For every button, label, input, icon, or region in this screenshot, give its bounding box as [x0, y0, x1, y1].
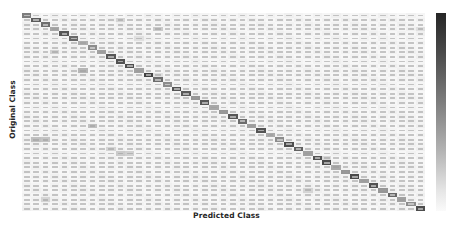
- cell-value-text: [352, 84, 358, 86]
- cell-value-text: [33, 56, 39, 58]
- cell-value-text: [324, 51, 330, 53]
- cell-value-text: [296, 189, 302, 191]
- cell-value-text: [43, 153, 49, 155]
- cell-value-text: [118, 70, 124, 72]
- cell-value-text: [165, 139, 171, 141]
- cell-value-text: [211, 208, 217, 210]
- cell-value-text: [230, 157, 236, 159]
- cell-value-text: [286, 28, 292, 30]
- cell-value-text: [371, 28, 377, 30]
- cell-value-text: [71, 84, 77, 86]
- cell-value-text: [80, 19, 86, 21]
- cell-value-text: [118, 208, 124, 210]
- cell-value-text: [90, 116, 96, 118]
- cell-value-text: [146, 24, 152, 26]
- cell-value-text: [333, 88, 339, 90]
- cell-value-text: [380, 176, 386, 178]
- cell-value-text: [62, 38, 68, 40]
- cell-value-text: [361, 130, 367, 132]
- cell-value-text: [174, 107, 180, 109]
- cell-value-text: [43, 93, 49, 95]
- cell-value-text: [155, 130, 161, 132]
- cell-value-text: [118, 38, 124, 40]
- cell-value-text: [108, 42, 114, 44]
- cell-value-text: [211, 79, 217, 81]
- cell-value-text: [343, 203, 349, 205]
- cell-value-text: [71, 116, 77, 118]
- cell-value-text: [324, 189, 330, 191]
- cell-value-text: [380, 74, 386, 76]
- cell-value-text: [361, 180, 367, 182]
- cell-value-text: [249, 28, 255, 30]
- cell-value-text: [390, 65, 396, 67]
- cell-value-text: [408, 139, 414, 141]
- cell-value-text: [43, 24, 49, 26]
- cell-value-text: [52, 70, 58, 72]
- cell-value-text: [127, 42, 133, 44]
- cell-value-text: [399, 199, 405, 201]
- cell-value-text: [146, 15, 152, 17]
- cell-value-text: [258, 33, 264, 35]
- cell-value-text: [343, 15, 349, 17]
- cell-value-text: [399, 56, 405, 58]
- cell-value-text: [230, 120, 236, 122]
- cell-value-text: [390, 148, 396, 150]
- cell-value-text: [324, 176, 330, 178]
- cell-value-text: [418, 47, 424, 49]
- cell-value-text: [418, 70, 424, 72]
- cell-value-text: [268, 51, 274, 53]
- cell-value-text: [371, 33, 377, 35]
- cell-value-text: [193, 162, 199, 164]
- cell-value-text: [324, 61, 330, 63]
- cell-value-text: [399, 194, 405, 196]
- cell-value-text: [286, 65, 292, 67]
- cell-value-text: [146, 19, 152, 21]
- cell-value-text: [277, 19, 283, 21]
- cell-value-text: [418, 33, 424, 35]
- cell-value-text: [118, 185, 124, 187]
- cell-value-text: [43, 97, 49, 99]
- cell-value-text: [221, 194, 227, 196]
- cell-value-text: [202, 28, 208, 30]
- cell-value-text: [202, 15, 208, 17]
- cell-value-text: [408, 189, 414, 191]
- cell-value-text: [52, 120, 58, 122]
- cell-value-text: [43, 166, 49, 168]
- cell-value-text: [380, 203, 386, 205]
- cell-value-text: [305, 74, 311, 76]
- cell-value-text: [296, 74, 302, 76]
- cell-value-text: [33, 125, 39, 127]
- cell-value-text: [258, 56, 264, 58]
- cell-value-text: [33, 47, 39, 49]
- cell-value-text: [165, 93, 171, 95]
- cell-value-text: [371, 42, 377, 44]
- cell-value-text: [286, 38, 292, 40]
- cell-value-text: [249, 70, 255, 72]
- cell-value-text: [305, 97, 311, 99]
- cell-value-text: [361, 116, 367, 118]
- cell-value-text: [155, 51, 161, 53]
- cell-value-text: [80, 166, 86, 168]
- cell-value-text: [202, 97, 208, 99]
- cell-value-text: [305, 15, 311, 17]
- cell-value-text: [71, 153, 77, 155]
- cell-value-text: [221, 185, 227, 187]
- cell-value-text: [418, 199, 424, 201]
- cell-value-text: [99, 56, 105, 58]
- cell-value-text: [80, 33, 86, 35]
- cell-value-text: [80, 107, 86, 109]
- cell-value-text: [230, 84, 236, 86]
- cell-value-text: [24, 51, 30, 53]
- cell-value-text: [99, 189, 105, 191]
- cell-value-text: [305, 171, 311, 173]
- cell-value-text: [230, 176, 236, 178]
- cell-value-text: [277, 166, 283, 168]
- cell-value-text: [24, 208, 30, 210]
- cell-value-text: [277, 33, 283, 35]
- cell-value-text: [352, 51, 358, 53]
- cell-value-text: [315, 15, 321, 17]
- cell-value-text: [155, 116, 161, 118]
- cell-value-text: [211, 130, 217, 132]
- cell-value-text: [183, 102, 189, 104]
- cell-value-text: [305, 180, 311, 182]
